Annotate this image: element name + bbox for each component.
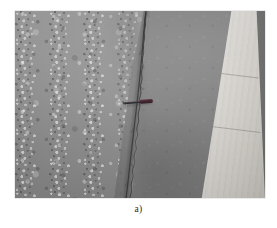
figure-container: a) bbox=[0, 0, 277, 228]
photo-canvas bbox=[15, 11, 265, 198]
figure-caption: a) bbox=[0, 203, 277, 215]
figure-photograph bbox=[15, 11, 265, 198]
